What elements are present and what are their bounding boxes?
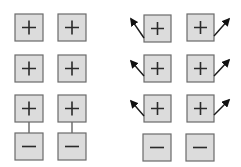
arrow-up-right-icon (214, 60, 229, 76)
positive-box (131, 55, 171, 82)
right-panel (131, 14, 229, 161)
positive-box (131, 95, 171, 122)
positive-box (15, 14, 43, 41)
positive-box (58, 55, 86, 82)
positive-box (187, 55, 229, 82)
negative-box (15, 133, 43, 160)
positive-box (15, 95, 43, 122)
arrow-up-left-icon (131, 61, 144, 76)
positive-box (131, 15, 171, 42)
positive-box (58, 14, 86, 41)
positive-box (187, 95, 229, 122)
arrow-up-right-icon (214, 19, 229, 36)
diagram-canvas (0, 0, 241, 167)
left-panel (15, 14, 86, 160)
positive-box (187, 14, 229, 41)
negative-box (143, 134, 171, 161)
arrow-up-left-icon (131, 101, 144, 116)
negative-box (58, 133, 86, 160)
arrow-up-right-icon (214, 100, 229, 115)
positive-box (58, 95, 86, 122)
arrow-up-left-icon (131, 19, 144, 38)
positive-box (15, 55, 43, 82)
negative-box (186, 134, 214, 161)
